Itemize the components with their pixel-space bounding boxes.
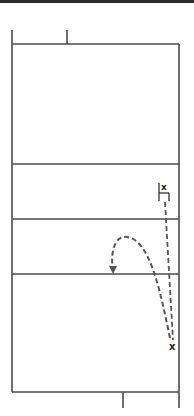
player-1-marker: x	[161, 182, 167, 192]
player-2-marker: x	[169, 342, 175, 352]
arrowhead-icon	[109, 266, 117, 274]
volleyball-court	[0, 0, 194, 416]
curved-ball-path	[112, 237, 170, 338]
